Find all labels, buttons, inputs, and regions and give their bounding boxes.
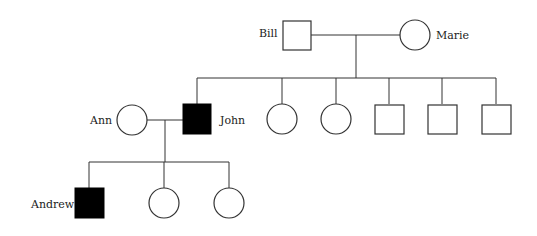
sibling-male-symbol — [482, 105, 511, 134]
gen3-female-symbol — [149, 188, 179, 218]
label-ann: Ann — [89, 114, 112, 127]
pedigree-diagram: Bill Marie Ann John Andrew — [0, 0, 537, 236]
label-john: John — [219, 114, 245, 127]
andrew-affected-male-symbol — [75, 188, 104, 218]
label-andrew: Andrew — [30, 198, 75, 211]
sibling-male-symbol — [375, 105, 404, 134]
sibling-female-symbol — [321, 104, 351, 134]
label-bill: Bill — [259, 27, 278, 40]
sibling-female-symbol — [267, 104, 297, 134]
label-marie: Marie — [436, 29, 469, 42]
gen3-female-symbol — [214, 188, 244, 218]
sibling-male-symbol — [428, 105, 457, 134]
marie-female-symbol — [400, 20, 430, 50]
ann-female-symbol — [117, 105, 147, 135]
john-affected-male-symbol — [183, 104, 211, 134]
bill-male-symbol — [283, 21, 311, 50]
